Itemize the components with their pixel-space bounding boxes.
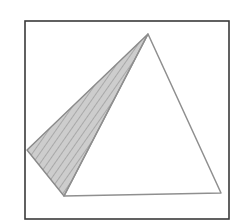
pyramid-diagram (0, 0, 244, 222)
